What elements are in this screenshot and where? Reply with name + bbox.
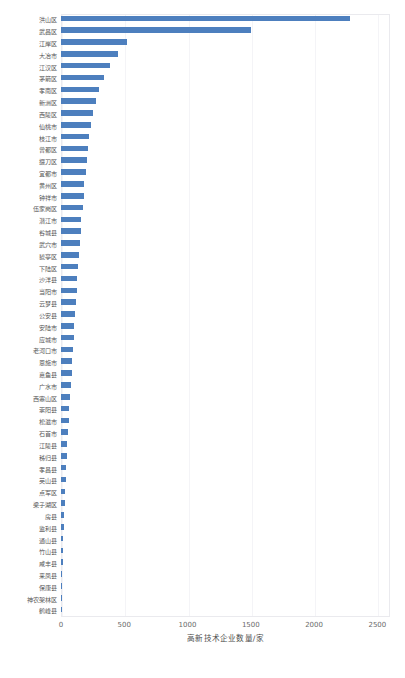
y-axis-tick-label: 宜都市 [0, 170, 57, 177]
x-axis-tick-label: 2000 [305, 620, 323, 630]
y-axis-tick-label: 神农架林区 [0, 596, 57, 603]
y-axis-tick-label: 来凤县 [0, 572, 57, 579]
bar [61, 217, 81, 223]
bar [61, 252, 79, 258]
bar [61, 98, 96, 104]
bar [61, 181, 84, 187]
y-axis-tick-label: 广水市 [0, 383, 57, 390]
bar [61, 607, 62, 613]
y-axis-tick-label: 江汉区 [0, 64, 57, 71]
bar [61, 583, 62, 589]
bar [61, 536, 63, 542]
y-axis-tick-label: 崇阳县 [0, 406, 57, 413]
y-axis-tick-label: 竹山县 [0, 548, 57, 555]
bar [61, 429, 68, 435]
bar [61, 264, 78, 270]
x-axis-tick-labels: 05001000150020002500 [61, 620, 390, 632]
bar [61, 323, 74, 329]
x-axis-title: 高新技术企业数量/家 [61, 632, 390, 643]
y-axis-tick-label: 石首市 [0, 430, 57, 437]
y-axis-tick-label: 西陵区 [0, 111, 57, 118]
y-axis-tick-labels: 洪山区武昌区江岸区大冶市江汉区茅箭区孝南区新洲区西陵区仙桃市枝江市曾都区掇刀区宜… [0, 14, 57, 617]
y-axis-tick-label: 武昌区 [0, 28, 57, 35]
y-axis-tick-label: 松滋市 [0, 418, 57, 425]
y-axis-tick-label: 谷城县 [0, 229, 57, 236]
bar [61, 228, 81, 234]
x-axis-tick-label: 0 [59, 620, 63, 630]
y-axis-tick-label: 伍家岗区 [0, 205, 57, 212]
bar [61, 477, 66, 483]
y-axis-tick-label: 沙洋县 [0, 276, 57, 283]
bar [61, 512, 64, 518]
bar [61, 370, 72, 376]
bar [61, 347, 73, 353]
bar [61, 406, 69, 412]
y-axis-tick-label: 茅箭区 [0, 75, 57, 82]
y-axis-tick-label: 孝南区 [0, 87, 57, 94]
bar [61, 548, 63, 554]
bar [61, 288, 77, 294]
bar [61, 559, 63, 565]
bar [61, 299, 76, 305]
y-axis-tick-label: 公安县 [0, 312, 57, 319]
y-axis-tick-label: 当阳市 [0, 288, 57, 295]
y-axis-tick-label: 咸丰县 [0, 560, 57, 567]
bar [61, 157, 87, 163]
bar [61, 441, 67, 447]
bar [61, 122, 91, 128]
x-axis-tick-label: 500 [118, 620, 131, 630]
y-axis-tick-label: 云梦县 [0, 300, 57, 307]
y-axis-tick-label: 西塞山区 [0, 395, 57, 402]
bar [61, 595, 62, 601]
y-axis-tick-label: 曾都区 [0, 146, 57, 153]
y-axis-tick-label: 新洲区 [0, 99, 57, 106]
y-axis-tick-label: 通山县 [0, 537, 57, 544]
bar [61, 465, 66, 471]
bar [61, 335, 74, 341]
bar [61, 134, 89, 140]
y-axis-tick-label: 保康县 [0, 584, 57, 591]
y-axis-tick-label: 点军区 [0, 489, 57, 496]
bar [61, 358, 72, 364]
chart-figure: 洪山区武昌区江岸区大冶市江汉区茅箭区孝南区新洲区西陵区仙桃市枝江市曾都区掇刀区宜… [0, 0, 405, 678]
y-axis-tick-label: 房县 [0, 513, 57, 520]
bar [61, 39, 127, 45]
x-axis-tick-label: 2500 [368, 620, 386, 630]
y-axis-tick-label: 江岸区 [0, 40, 57, 47]
y-axis-tick-label: 英山县 [0, 477, 57, 484]
bar-series [61, 14, 390, 617]
y-axis-tick-label: 洪山区 [0, 16, 57, 23]
bar [61, 27, 251, 33]
y-axis-tick-label: 鹤峰县 [0, 607, 57, 614]
y-axis-tick-label: 枝江市 [0, 135, 57, 142]
y-axis-tick-label: 仙桃市 [0, 123, 57, 130]
bar [61, 524, 64, 530]
bar [61, 110, 93, 116]
bar [61, 276, 77, 282]
y-axis-tick-label: 嘉鱼县 [0, 371, 57, 378]
bar [61, 453, 67, 459]
bar [61, 75, 104, 81]
bar [61, 489, 65, 495]
bar [61, 87, 99, 93]
y-axis-tick-label: 钟祥市 [0, 194, 57, 201]
x-axis-tick-label: 1000 [179, 620, 197, 630]
y-axis-tick-label: 应城市 [0, 336, 57, 343]
bar [61, 193, 84, 199]
bar [61, 146, 88, 152]
y-axis-tick-label: 黄州区 [0, 182, 57, 189]
bar [61, 63, 110, 69]
y-axis-tick-label: 猇亭区 [0, 253, 57, 260]
bar [61, 16, 350, 22]
x-axis-tick-label: 1500 [242, 620, 260, 630]
y-axis-tick-label: 监利县 [0, 525, 57, 532]
y-axis-tick-label: 江陵县 [0, 442, 57, 449]
bar [61, 51, 118, 57]
y-axis-tick-label: 大冶市 [0, 52, 57, 59]
bar [61, 571, 62, 577]
bar [61, 394, 70, 400]
y-axis-tick-label: 恩施市 [0, 359, 57, 366]
bar [61, 240, 80, 246]
bar [61, 418, 69, 424]
bar [61, 382, 71, 388]
